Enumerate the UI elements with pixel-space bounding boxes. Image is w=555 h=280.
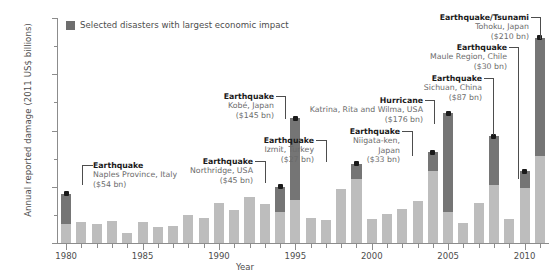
bar-segment-highlight <box>275 187 285 212</box>
x-tick-label: 1990 <box>199 251 239 261</box>
annotation-line: Kobé, Japan <box>196 101 274 110</box>
bar-segment-base <box>382 214 392 243</box>
x-axis-line <box>57 243 549 244</box>
bar-segment-base <box>428 171 438 243</box>
bar-1998 <box>336 189 346 243</box>
x-tick-minor <box>387 244 388 248</box>
bar-1982 <box>92 224 102 243</box>
leader-line-horizontal <box>402 131 412 132</box>
bar-segment-base <box>61 224 71 243</box>
annotation-title: Earthquake <box>236 136 314 145</box>
bar-segment-base <box>321 220 331 243</box>
y-tick-minor <box>54 215 57 216</box>
leader-line-vertical <box>434 100 435 124</box>
y-tick <box>52 74 57 75</box>
y-tick-minor <box>54 46 57 47</box>
x-tick-minor <box>356 244 357 248</box>
bar-1992 <box>244 197 254 243</box>
bar-1988 <box>183 215 193 243</box>
bar-1993 <box>260 204 270 243</box>
leader-line-vertical <box>493 78 494 135</box>
leader-line-horizontal <box>82 165 93 166</box>
x-tick-minor <box>158 244 159 248</box>
x-tick-label: 1980 <box>46 251 86 261</box>
x-tick-minor <box>479 244 480 248</box>
bar-segment-base <box>244 197 254 243</box>
bar-1996 <box>306 218 316 243</box>
bar-2004 <box>428 152 438 243</box>
bar-segment-highlight <box>443 113 453 212</box>
bar-segment-highlight <box>520 171 530 188</box>
leader-line-horizontal <box>484 78 493 79</box>
annotation-sichuan: EarthquakeSichuan, China($87 bn) <box>390 74 482 102</box>
annotation-line: Sichuan, China <box>390 83 482 92</box>
annotation-title: Earthquake <box>390 74 482 83</box>
x-tick-minor <box>311 244 312 248</box>
x-tick-minor <box>173 244 174 248</box>
bar-segment-base <box>92 224 102 243</box>
x-tick-label: 1995 <box>275 251 315 261</box>
bar-segment-base <box>107 221 117 244</box>
x-tick-minor <box>463 244 464 248</box>
bar-segment-base <box>229 210 239 243</box>
bar-segment-base <box>290 200 300 243</box>
bar-1984 <box>122 233 132 243</box>
bar-segment-base <box>474 203 484 243</box>
bar-segment-base <box>183 215 193 243</box>
x-tick-minor <box>250 244 251 248</box>
bar-segment-base <box>504 219 514 243</box>
annotation-line: ($30 bn) <box>385 62 507 71</box>
bar-segment-base <box>214 203 224 243</box>
annotation-line: Katrina, Rita and Wilma, USA <box>275 105 423 114</box>
bar-segment-base <box>199 218 209 243</box>
x-tick-minor <box>540 244 541 248</box>
x-tick-major <box>66 244 67 250</box>
annotation-marker-2004 <box>430 150 435 155</box>
annotation-kobe: EarthquakeKobé, Japan($145 bn) <box>196 92 274 120</box>
bar-2003 <box>413 201 423 243</box>
x-tick-label: 2005 <box>428 251 468 261</box>
bar-segment-highlight <box>428 152 438 171</box>
leader-line-vertical <box>540 17 541 39</box>
annotation-izmit: EarthquakeIzmit, Turkey($27 bn) <box>236 136 314 164</box>
x-tick-label: 1985 <box>123 251 163 261</box>
bar-segment-highlight <box>489 136 499 185</box>
bar-segment-highlight <box>535 38 545 156</box>
legend-swatch-icon <box>66 21 75 30</box>
annotation-line: ($33 bn) <box>325 155 400 164</box>
annotation-marker-1980 <box>64 191 69 196</box>
bar-2005 <box>443 113 453 243</box>
annotation-line: Maule Region, Chile <box>385 52 507 61</box>
bar-1980 <box>61 194 71 244</box>
bar-segment-base <box>520 188 530 243</box>
x-tick-minor <box>509 244 510 248</box>
x-tick-minor <box>280 244 281 248</box>
bar-2010 <box>520 171 530 243</box>
bar-2002 <box>397 209 407 243</box>
leader-line-vertical <box>82 165 83 185</box>
bar-segment-base <box>275 212 285 243</box>
x-tick-label: 2000 <box>352 251 392 261</box>
bar-segment-base <box>367 219 377 243</box>
x-tick-minor <box>418 244 419 248</box>
y-tick <box>52 18 57 19</box>
bar-segment-base <box>397 209 407 243</box>
annotation-niigata: EarthquakeNiigata-ken,Japan($33 bn) <box>325 127 400 165</box>
bar-segment-base <box>153 227 163 243</box>
y-tick-minor <box>54 102 57 103</box>
leader-line-vertical <box>412 131 413 156</box>
annotation-marker-1994 <box>278 184 283 189</box>
annotation-title: Earthquake <box>385 43 507 52</box>
x-tick-major <box>372 244 373 250</box>
bar-2007 <box>474 203 484 243</box>
x-tick-minor <box>188 244 189 248</box>
bar-segment-base <box>351 179 361 243</box>
bar-1997 <box>321 220 331 243</box>
x-tick-minor <box>326 244 327 248</box>
y-tick-minor <box>54 159 57 160</box>
x-tick-major <box>525 244 526 250</box>
bar-segment-base <box>122 233 132 243</box>
bar-segment-base <box>489 185 499 243</box>
x-tick-label: 2010 <box>505 251 545 261</box>
bar-1991 <box>229 210 239 243</box>
